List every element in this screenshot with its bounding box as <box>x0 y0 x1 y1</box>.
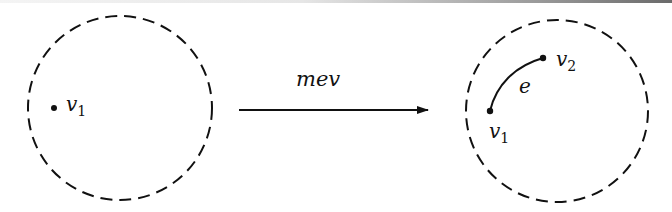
before-state: v1 <box>28 16 212 200</box>
before-vertex-v1-label: v1 <box>66 92 86 119</box>
operation-label: mev <box>296 67 340 91</box>
before-vertex-v1-dot <box>51 105 57 111</box>
after-vertex-v1-dot <box>487 108 493 114</box>
edge-e-curve <box>490 58 543 111</box>
euler-operator-diagram: v1 mev e v2 v1 <box>0 0 672 212</box>
after-vertex-v2-dot <box>540 55 546 61</box>
after-vertex-v2-label: v2 <box>556 47 576 74</box>
after-vertex-v1-label: v1 <box>489 119 509 146</box>
after-state: e v2 v1 <box>466 20 648 202</box>
operation-arrow: mev <box>239 67 428 110</box>
edge-e-label: e <box>519 74 531 98</box>
